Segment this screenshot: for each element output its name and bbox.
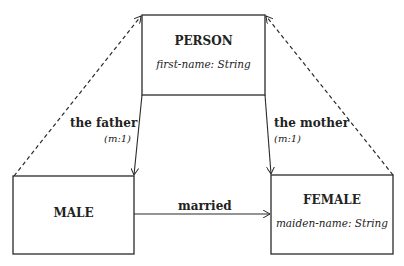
class-box-female[interactable] (271, 175, 393, 254)
class-attribute-person: first-name: String (142, 58, 265, 70)
class-box-person[interactable] (142, 15, 265, 95)
relation-father-line (134, 95, 142, 175)
relation-father-cardinality: (m:1) (104, 133, 131, 144)
generalization-male-person (14, 16, 141, 176)
class-name-person: PERSON (142, 34, 265, 48)
relation-married-label: married (178, 199, 232, 213)
relation-father-label: the father (70, 116, 137, 130)
relation-mother-line (265, 95, 271, 174)
class-name-male: MALE (13, 206, 134, 220)
relation-mother-label: the mother (274, 116, 349, 130)
class-attribute-female: maiden-name: String (271, 217, 393, 229)
class-name-female: FEMALE (271, 193, 393, 207)
relation-mother-cardinality: (m:1) (274, 133, 301, 144)
generalization-female-person (266, 16, 393, 175)
